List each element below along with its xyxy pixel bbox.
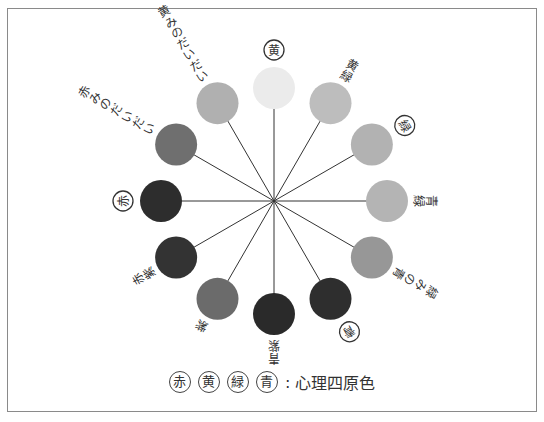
spokes xyxy=(161,88,387,314)
color-disc xyxy=(197,278,239,320)
color-label: 紫 xyxy=(193,317,210,335)
primary-color-label: 黄 xyxy=(264,40,284,60)
color-label: 青緑 xyxy=(411,195,438,207)
color-disc xyxy=(155,124,197,166)
label-char: 紫 xyxy=(268,338,280,352)
color-disc xyxy=(140,180,182,222)
legend-separator: : xyxy=(285,373,290,392)
primary-color-label: 赤 xyxy=(113,191,133,211)
color-label: 赤紫 xyxy=(129,264,158,288)
legend-badge-green: 緑 xyxy=(227,371,249,393)
label-text: 赤 xyxy=(117,195,131,207)
legend-badge-blue: 青 xyxy=(256,371,278,393)
color-disc xyxy=(366,180,408,222)
label-text: 黄 xyxy=(268,44,280,58)
color-label: 黄緑 xyxy=(337,56,361,85)
legend-text: 心理四原色 xyxy=(295,374,375,393)
color-disc xyxy=(351,124,393,166)
label-char: 紫 xyxy=(193,317,210,335)
color-label: 赤みのだいだい xyxy=(75,83,158,138)
label-char: 緑 xyxy=(411,195,426,207)
color-label: 黄みのだいだい xyxy=(156,2,211,85)
color-disc xyxy=(310,278,352,320)
color-disc xyxy=(310,82,352,124)
color-disc xyxy=(197,82,239,124)
color-label: 緑みの青 xyxy=(390,264,441,301)
color-disc xyxy=(155,237,197,279)
primary-color-label: 青 xyxy=(336,318,363,345)
legend-badge-yellow: 黄 xyxy=(198,371,220,393)
color-label: 青紫 xyxy=(268,338,280,365)
legend-badge-red: 赤 xyxy=(169,371,191,393)
legend: 赤 黄 緑 青 : 心理四原色 xyxy=(0,370,544,394)
color-disc xyxy=(253,67,295,109)
primary-color-label: 緑 xyxy=(391,112,418,139)
color-disc xyxy=(253,293,295,335)
color-wheel: 黄黄緑緑青緑緑みの青青青紫紫赤紫赤赤みのだいだい黄みのだいだい xyxy=(0,0,544,422)
color-disc xyxy=(351,237,393,279)
